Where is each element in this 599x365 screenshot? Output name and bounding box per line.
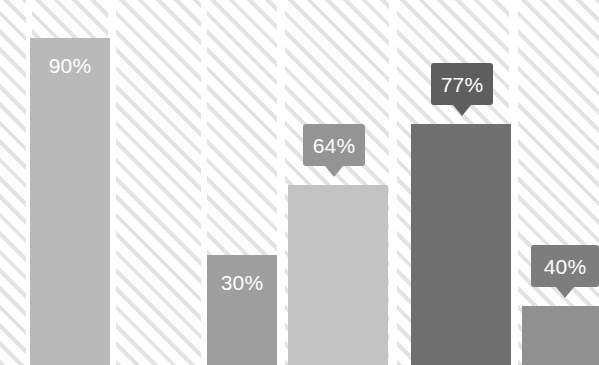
bar-4-callout: 77%	[431, 63, 493, 105]
bar-3-callout: 64%	[303, 124, 365, 166]
bar-3[interactable]	[288, 185, 388, 365]
bar-4-callout-tail-icon	[453, 105, 471, 116]
bar-4[interactable]	[411, 124, 511, 365]
bar-chart: 90%30% 64%77%40%	[0, 0, 599, 365]
bar-1-value-label: 90%	[49, 55, 92, 76]
bar-5-callout-tail-icon	[556, 287, 574, 298]
bar-5[interactable]	[522, 306, 599, 365]
bar-4-value-label: 77%	[441, 74, 484, 95]
bar-5-value-label: 40%	[544, 256, 587, 277]
bar-3-callout-tail-icon	[325, 166, 343, 177]
bar-2-value-label: 30%	[221, 272, 264, 293]
bar-3-value-label: 64%	[313, 135, 356, 156]
bar-5-callout: 40%	[531, 245, 599, 287]
bar-1[interactable]: 90%	[30, 38, 110, 365]
hatch-column-3	[116, 0, 201, 365]
hatch-column-1	[0, 0, 26, 365]
bar-2[interactable]: 30%	[207, 255, 277, 365]
